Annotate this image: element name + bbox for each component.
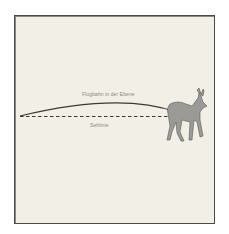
trajectory-diagram <box>0 0 229 234</box>
deer-icon <box>167 88 207 141</box>
line-of-sight-label: Sehlinie <box>90 122 109 128</box>
trajectory-arc <box>20 103 176 116</box>
arc-label: Flugbahn in der Ebene <box>82 91 135 97</box>
